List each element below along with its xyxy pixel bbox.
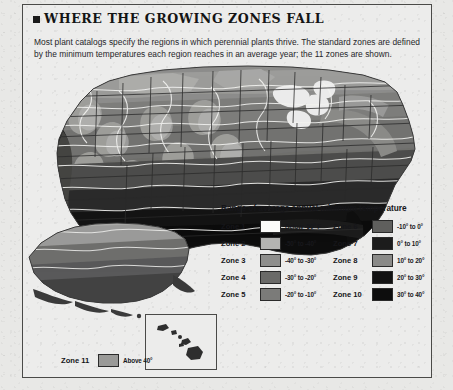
zone-range: Above 40° xyxy=(123,357,152,364)
map-legend: Range of average annual minimum temperat… xyxy=(221,203,426,302)
zone-range: -40° to -30° xyxy=(285,257,316,264)
zone-label: Zone 11 xyxy=(61,356,94,365)
zone-label: Zone 3 xyxy=(221,256,256,265)
legend-item-zone-9: Zone 9 20° to 30° xyxy=(333,271,424,285)
zone-range: -30° to -20° xyxy=(285,274,316,281)
zone-range: -50° to -40° xyxy=(285,240,316,247)
legend-item-zone-10: Zone 10 30° to 40° xyxy=(333,288,424,302)
zone-label: Zone 2 xyxy=(221,239,256,248)
legend-title: Range of average annual minimum temperat… xyxy=(221,203,426,213)
zone-swatch xyxy=(260,288,281,301)
legend-item-zone-4: Zone 4 -30° to -20° xyxy=(221,271,321,285)
zone-range: 30° to 40° xyxy=(397,291,424,298)
legend-item-zone-2: Zone 2 -50° to -40° xyxy=(221,236,321,250)
zone-swatch xyxy=(260,237,281,250)
legend-column-left: Zone 1 Below -50° F Zone 2 -50° to -40° … xyxy=(221,219,321,302)
article-frame: WHERE THE GROWING ZONES FALL Most plant … xyxy=(22,4,432,378)
zone-range: -20° to -10° xyxy=(285,291,316,298)
legend-item-zone-5: Zone 5 -20° to -10° xyxy=(221,288,321,302)
page-root: WHERE THE GROWING ZONES FALL Most plant … xyxy=(0,0,453,390)
zone-swatch xyxy=(372,288,393,301)
zone-label: Zone 8 xyxy=(333,256,368,265)
hawaii-inset xyxy=(145,314,217,370)
zone-swatch xyxy=(372,237,393,250)
zone-label: Zone 4 xyxy=(221,273,256,282)
zone-range: -10° to 0° xyxy=(397,223,423,230)
zone-label: Zone 9 xyxy=(333,273,368,282)
legend-item-zone-11: Zone 11 Above 40° xyxy=(61,353,152,367)
zone-swatch xyxy=(260,254,281,267)
legend-item-zone-6: Zone 6 -10° to 0° xyxy=(333,219,424,233)
article-body-text: Most plant catalogs specify the regions … xyxy=(34,37,422,60)
headline: WHERE THE GROWING ZONES FALL xyxy=(33,11,324,26)
zone-swatch xyxy=(260,220,281,233)
zone-label: Zone 10 xyxy=(333,290,368,299)
zone-label: Zone 1 xyxy=(221,222,256,231)
zone-range: 20° to 30° xyxy=(397,274,424,281)
page-title: WHERE THE GROWING ZONES FALL xyxy=(44,11,324,26)
zone-label: Zone 6 xyxy=(333,222,368,231)
zone-range: 0° to 10° xyxy=(397,240,421,247)
zone-label: Zone 7 xyxy=(333,239,368,248)
zone-swatch xyxy=(260,271,281,284)
filled-square-bullet-icon xyxy=(33,16,40,23)
zone-swatch xyxy=(372,271,393,284)
legend-item-zone-3: Zone 3 -40° to -30° xyxy=(221,253,321,267)
zone-range: 10° to 20° xyxy=(397,257,424,264)
legend-item-zone-7: Zone 7 0° to 10° xyxy=(333,236,424,250)
hawaii-islands xyxy=(157,324,203,360)
legend-item-zone-8: Zone 8 10° to 20° xyxy=(333,253,424,267)
legend-column-right: Zone 6 -10° to 0° Zone 7 0° to 10° Zone … xyxy=(333,219,424,302)
zone-range: Below -50° F xyxy=(285,223,321,230)
zone-swatch xyxy=(98,354,119,367)
legend-item-zone-1: Zone 1 Below -50° F xyxy=(221,219,321,233)
zone-swatch xyxy=(372,220,393,233)
zone-swatch xyxy=(372,254,393,267)
zone-label: Zone 5 xyxy=(221,290,256,299)
